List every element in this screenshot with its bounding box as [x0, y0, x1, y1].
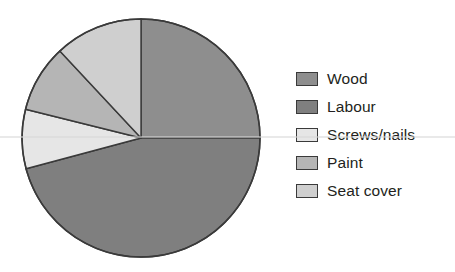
legend-item-label: Seat cover [327, 183, 402, 199]
legend-item-label: Paint [327, 155, 363, 171]
legend-item-label: Labour [327, 99, 376, 115]
legend: WoodLabourScrews/nailsPaintSeat cover [296, 68, 455, 202]
legend-swatch-icon [296, 128, 318, 142]
legend-swatch-icon [296, 184, 318, 198]
legend-item-labour[interactable]: Labour [296, 96, 455, 118]
legend-swatch-icon [296, 100, 318, 114]
pie-chart-figure: WoodLabourScrews/nailsPaintSeat cover [0, 0, 455, 272]
legend-item-label: Screws/nails [327, 127, 415, 143]
legend-item-wood[interactable]: Wood [296, 68, 455, 90]
legend-item-screws-nails[interactable]: Screws/nails [296, 124, 455, 146]
pie-slice-wood[interactable] [141, 19, 260, 138]
legend-item-seat-cover[interactable]: Seat cover [296, 180, 455, 202]
pie-plot-area [0, 0, 285, 272]
legend-item-paint[interactable]: Paint [296, 152, 455, 174]
pie-slices-group [22, 19, 260, 257]
legend-item-label: Wood [327, 71, 368, 87]
legend-swatch-icon [296, 72, 318, 86]
pie-svg [0, 0, 285, 272]
legend-swatch-icon [296, 156, 318, 170]
